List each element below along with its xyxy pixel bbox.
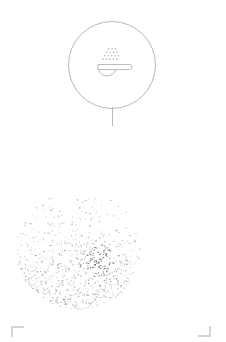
particle-cloud-canvas bbox=[0, 150, 226, 320]
seasoning-spoon-marker[interactable] bbox=[68, 21, 156, 109]
spoon-shape bbox=[98, 65, 132, 76]
bottom-right-crop-mark bbox=[198, 326, 211, 337]
grain-dots bbox=[102, 48, 119, 60]
screenshot-canvas bbox=[0, 0, 226, 342]
marker-stem bbox=[112, 107, 113, 126]
bottom-left-crop-mark bbox=[11, 326, 24, 337]
spoon-with-grains-icon bbox=[69, 22, 155, 108]
crop-mark-horizontal-stroke bbox=[11, 326, 24, 328]
crop-mark-horizontal-stroke bbox=[198, 335, 211, 337]
particle-scatter-cloud bbox=[0, 150, 226, 320]
